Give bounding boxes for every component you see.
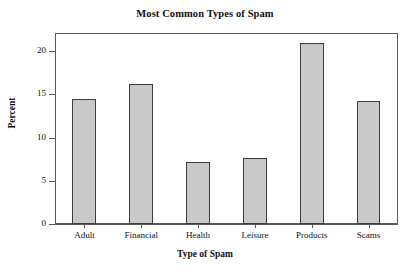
y-tick-label: 5	[6, 175, 46, 185]
x-tick	[84, 224, 85, 228]
x-tick-label-financial: Financial	[113, 230, 170, 240]
x-axis-title: Type of Spam	[0, 249, 410, 259]
x-tick	[198, 224, 199, 228]
bar-products	[300, 43, 324, 224]
chart-figure: Most Common Types of Spam Percent Type o…	[0, 0, 410, 278]
y-tick	[49, 94, 55, 95]
bar-series	[56, 34, 397, 224]
x-tick	[141, 224, 142, 228]
bar-slot	[227, 34, 284, 224]
x-tick-label-adult: Adult	[56, 230, 113, 240]
bar-slot	[113, 34, 170, 224]
y-tick	[49, 138, 55, 139]
bar-financial	[129, 84, 153, 224]
y-axis-line	[55, 33, 56, 224]
x-tick-label-health: Health	[170, 230, 227, 240]
y-tick-label: 15	[6, 88, 46, 98]
bar-slot	[56, 34, 113, 224]
x-tick-label-leisure: Leisure	[227, 230, 284, 240]
x-axis-line	[55, 224, 398, 225]
y-tick	[49, 51, 55, 52]
bar-slot	[340, 34, 397, 224]
x-tick	[369, 224, 370, 228]
y-tick	[49, 181, 55, 182]
chart-title: Most Common Types of Spam	[0, 8, 410, 19]
bar-slot	[283, 34, 340, 224]
y-tick-label: 10	[6, 132, 46, 142]
bar-health	[186, 162, 210, 224]
x-tick-label-products: Products	[283, 230, 340, 240]
x-tick-label-scams: Scams	[340, 230, 397, 240]
bar-adult	[72, 99, 96, 224]
y-tick-label: 0	[6, 218, 46, 228]
bar-slot	[170, 34, 227, 224]
y-tick-label: 20	[6, 45, 46, 55]
y-tick	[49, 224, 55, 225]
x-tick	[255, 224, 256, 228]
bar-scams	[357, 101, 381, 224]
x-tick	[312, 224, 313, 228]
bar-leisure	[243, 158, 267, 225]
